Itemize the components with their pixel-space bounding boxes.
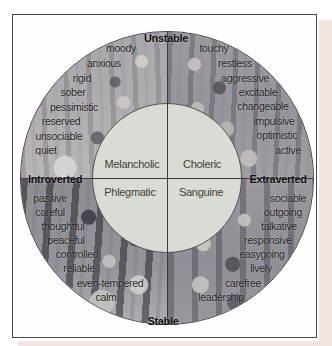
trait-label: rigid xyxy=(73,72,91,84)
trait-label: even-tempered xyxy=(77,277,144,289)
page-margin-accent-bottom xyxy=(18,341,332,346)
trait-label: restless xyxy=(218,57,252,69)
temperament-melancholic: Melancholic xyxy=(105,158,160,170)
trait-label: calm xyxy=(96,291,117,303)
trait-label: pessimistic xyxy=(50,101,98,113)
trait-label: unsociable xyxy=(35,130,82,142)
trait-label: optimistic xyxy=(257,129,298,141)
trait-label: anxious xyxy=(87,57,121,69)
pole-label-introverted: Introverted xyxy=(28,173,82,185)
trait-label: aggressive xyxy=(221,72,269,84)
trait-label: changeable xyxy=(237,100,288,112)
trait-label: easygoing xyxy=(239,248,284,260)
pole-label-unstable: Unstable xyxy=(144,32,188,44)
trait-label: peaceful xyxy=(47,234,84,246)
trait-label: quiet xyxy=(35,144,56,156)
trait-label: sober xyxy=(61,86,86,98)
trait-label: carefree xyxy=(225,277,261,289)
trait-label: impulsive xyxy=(253,115,294,127)
trait-label: active xyxy=(275,144,301,156)
trait-label: leadership xyxy=(198,291,243,303)
trait-label: passive xyxy=(33,192,67,204)
trait-label: outgoing xyxy=(264,206,302,218)
trait-label: reserved xyxy=(42,115,80,127)
trait-label: lively xyxy=(250,262,272,274)
trait-label: thoughtful xyxy=(41,220,84,232)
page-margin-accent-right xyxy=(319,20,332,346)
pole-label-stable: Stable xyxy=(147,315,178,327)
trait-label: responsive xyxy=(244,234,292,246)
trait-label: sociable xyxy=(270,192,306,204)
temperament-sanguine: Sanguine xyxy=(179,186,223,198)
temperament-choleric: Choleric xyxy=(183,158,221,170)
trait-label: careful xyxy=(35,206,64,218)
temperament-phlegmatic: Phlegmatic xyxy=(104,186,155,198)
trait-label: controlled xyxy=(56,248,99,260)
trait-label: moody xyxy=(106,42,136,54)
pole-label-extraverted: Extraverted xyxy=(249,173,306,185)
trait-label: touchy xyxy=(199,42,228,54)
trait-label: reliable xyxy=(63,262,94,274)
trait-label: talkative xyxy=(261,220,297,232)
trait-label: excitable xyxy=(239,86,278,98)
